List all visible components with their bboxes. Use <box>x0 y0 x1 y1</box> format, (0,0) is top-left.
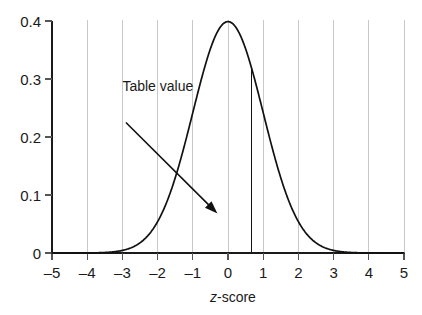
x-tick-label-1: 1 <box>259 264 267 281</box>
x-tick-label--5: –5 <box>44 264 61 281</box>
x-tick-label--2: –2 <box>149 264 166 281</box>
y-tick-label-0.3: 0.3 <box>20 71 41 88</box>
chart-figure: 0.4 0.3 0.2 0.1 0 –5 –4 –3 –2 <box>0 0 422 315</box>
y-tick-label-0.4: 0.4 <box>20 13 41 30</box>
x-tick-label--1: –1 <box>184 264 201 281</box>
x-tick-label--3: –3 <box>114 264 131 281</box>
x-tick-label-0: 0 <box>224 264 232 281</box>
x-tick-label--4: –4 <box>79 264 96 281</box>
table-value-annotation-label: Table value <box>122 78 193 94</box>
y-tick-label-0: 0 <box>33 245 41 262</box>
y-tick-label-0.1: 0.1 <box>20 187 41 204</box>
y-tick-label-0.2: 0.2 <box>20 129 41 146</box>
svg-text:z-score: z-score <box>209 289 256 305</box>
x-tick-label-5: 5 <box>400 264 408 281</box>
x-tick-label-2: 2 <box>294 264 302 281</box>
x-axis-title: z-score <box>209 289 256 305</box>
x-tick-label-3: 3 <box>329 264 337 281</box>
x-axis-title-italic-part: z <box>209 289 217 305</box>
x-axis-title-rest: -score <box>217 289 256 305</box>
x-tick-label-4: 4 <box>365 264 373 281</box>
normal-distribution-chart: 0.4 0.3 0.2 0.1 0 –5 –4 –3 –2 <box>0 0 422 315</box>
